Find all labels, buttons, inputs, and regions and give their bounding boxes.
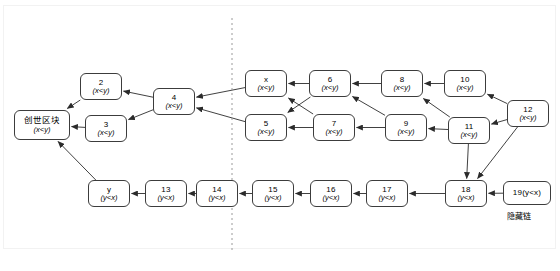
hidden-chain-caption: 隐藏链 xyxy=(507,210,531,221)
edge-b12-to-b11 xyxy=(492,120,508,124)
block-node-b17: 17(y<x) xyxy=(366,180,408,207)
edge-b2-to-genesis xyxy=(67,100,80,109)
block-condition: (x<y) xyxy=(34,126,51,135)
block-node-b5: 5(x<y) xyxy=(245,114,287,141)
edge-b12-to-b10 xyxy=(488,94,508,103)
block-condition: (x<y) xyxy=(258,84,275,93)
block-condition: (x<y) xyxy=(326,128,343,137)
block-condition: (x<y) xyxy=(322,84,339,93)
edge-b4-to-b3 xyxy=(129,110,154,120)
block-condition: (y<x) xyxy=(323,194,340,203)
block-node-b18: 18(y<x) xyxy=(445,180,487,207)
block-node-b7: 7(x<y) xyxy=(313,114,355,141)
edge-b5-to-b4 xyxy=(197,108,246,122)
edge-b4-to-b2 xyxy=(124,91,154,97)
block-condition: (y<x) xyxy=(158,194,175,203)
block-condition: (y<x) xyxy=(209,194,226,203)
block-node-b19: 19(y<x) xyxy=(503,181,551,205)
block-node-b15: 15(y<x) xyxy=(252,180,294,207)
block-node-genesis: 创世区块(x<y) xyxy=(14,110,70,140)
block-node-b2: 2(x<y) xyxy=(80,73,122,100)
edge-b7-to-bx xyxy=(289,98,314,114)
block-condition: (y<x) xyxy=(265,194,282,203)
block-condition: (x<y) xyxy=(457,84,474,93)
block-node-b3: 3(x<y) xyxy=(85,115,127,142)
edge-by-to-genesis xyxy=(58,142,96,181)
diagram-canvas: 创世区块(x<y)2(x<y)3(x<y)4(x<y)x(x<y)5(x<y)6… xyxy=(0,0,560,271)
block-condition: (x<y) xyxy=(394,84,411,93)
block-condition: (x<y) xyxy=(93,87,110,96)
block-node-by: y(y<x) xyxy=(88,180,130,207)
block-node-b14: 14(y<x) xyxy=(196,180,238,207)
block-node-bx: x(x<y) xyxy=(245,70,287,97)
edge-b11-to-b18 xyxy=(467,144,469,179)
block-node-b16: 16(y<x) xyxy=(310,180,352,207)
edge-b11-to-b8 xyxy=(423,99,449,118)
block-node-b13: 13(y<x) xyxy=(145,180,187,207)
block-condition: (y<x) xyxy=(101,194,118,203)
block-condition: (x<y) xyxy=(258,128,275,137)
edge-b3-to-genesis xyxy=(72,127,86,128)
block-condition: (x<y) xyxy=(98,129,115,138)
block-condition: (y<x) xyxy=(379,194,396,203)
edge-b9-to-b6 xyxy=(353,97,386,116)
block-condition: (x<y) xyxy=(166,102,183,111)
block-condition: (x<y) xyxy=(520,114,537,123)
edge-bx-to-b4 xyxy=(197,88,246,98)
block-node-b12: 12(x<y) xyxy=(507,100,549,127)
block-node-b9: 9(x<y) xyxy=(385,114,427,141)
block-node-b4: 4(x<y) xyxy=(153,88,195,115)
block-node-b8: 8(x<y) xyxy=(381,70,423,97)
block-label: 19(y<x) xyxy=(513,188,541,197)
block-node-b10: 10(x<y) xyxy=(444,70,486,97)
edge-b11-to-b9 xyxy=(429,129,449,130)
block-condition: (x<y) xyxy=(461,131,478,140)
block-condition: (y<x) xyxy=(458,194,475,203)
block-node-b11: 11(x<y) xyxy=(448,117,490,144)
block-node-b6: 6(x<y) xyxy=(309,70,351,97)
block-condition: (x<y) xyxy=(398,128,415,137)
